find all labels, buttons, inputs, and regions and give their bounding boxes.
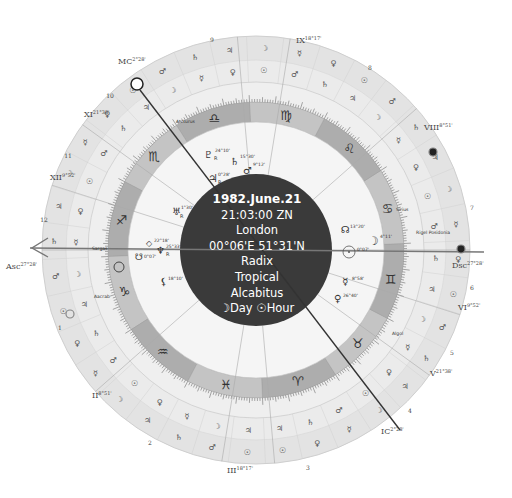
svg-text:☿: ☿	[396, 136, 401, 145]
house-number-3: 3	[306, 464, 310, 471]
house-v-label: V21°38'	[429, 368, 452, 378]
svg-text:☽: ☽	[261, 44, 268, 53]
svg-text:♄: ♄	[321, 80, 328, 89]
svg-text:♀: ♀	[77, 207, 83, 216]
svg-text:R: R	[180, 213, 184, 219]
zodiac-sign-glyph: ♉	[352, 336, 364, 351]
chart-time: 21:03:00 ZN	[196, 208, 318, 224]
svg-text:25°33': 25°33'	[166, 244, 181, 249]
fixed-star-rigel: Rigel Posidonia	[416, 230, 450, 235]
zodiac-sign-glyph: ♌	[343, 141, 355, 156]
fixed-star-algol: Algol	[392, 331, 403, 336]
svg-text:☽: ☽	[368, 234, 379, 248]
chart-day-hour: ☽Day ☉Hour	[196, 301, 318, 317]
svg-text:♃: ♃	[428, 285, 435, 294]
svg-text:☉: ☉	[279, 446, 286, 455]
house-viii-label: VIII8°51'	[423, 122, 453, 132]
zodiac-sign-glyph: ♍	[280, 108, 292, 123]
fixed-star-arcturus: Arcturus	[176, 119, 196, 124]
svg-text:R: R	[218, 179, 222, 185]
asc-label: Asc27°28'	[5, 261, 37, 271]
svg-text:R: R	[166, 251, 170, 257]
svg-text:♂: ♂	[209, 443, 216, 452]
chart-date: 1982.June.21	[196, 192, 318, 208]
zodiac-sign-glyph: ♒	[157, 344, 169, 359]
zodiac-sign-glyph: ♊	[385, 272, 397, 287]
zodiac-sign-glyph: ♎	[209, 111, 221, 126]
svg-text:♄: ♄	[93, 329, 100, 338]
svg-text:☿: ☿	[347, 425, 352, 434]
svg-text:0°28': 0°28'	[218, 172, 230, 177]
svg-text:☉: ☉	[131, 379, 138, 388]
svg-text:⚸: ⚸	[160, 276, 167, 287]
svg-text:☿: ☿	[93, 369, 98, 378]
house-number-7: 7	[470, 204, 474, 211]
fixed-star-acrab: Aacrab	[94, 294, 110, 299]
svg-text:0°07': 0°07'	[144, 254, 156, 259]
svg-text:♄: ♄	[175, 433, 182, 442]
svg-text:♄: ♄	[120, 124, 127, 133]
svg-text:18°10': 18°10'	[168, 276, 183, 281]
house-number-6: 6	[470, 284, 474, 291]
chart-place: London	[196, 223, 318, 239]
svg-text:♃: ♃	[226, 46, 233, 55]
svg-text:♃: ♃	[81, 300, 88, 309]
svg-text:☋: ☋	[135, 252, 143, 262]
svg-text:♀: ♀	[314, 439, 320, 448]
svg-text:♄: ♄	[230, 156, 239, 167]
svg-text:♄: ♄	[413, 123, 420, 132]
svg-text:♃: ♃	[245, 426, 252, 435]
house-number-9: 9	[210, 36, 214, 43]
svg-text:☿: ☿	[74, 238, 79, 247]
svg-text:♂: ♂	[243, 165, 252, 176]
svg-text:◇: ◇	[146, 239, 153, 248]
svg-text:☉: ☉	[86, 177, 93, 186]
svg-text:☿: ☿	[342, 276, 348, 287]
svg-text:♂: ♂	[291, 70, 298, 79]
svg-text:♀: ♀	[330, 59, 336, 68]
house-number-4: 4	[408, 407, 412, 414]
svg-text:♄: ♄	[51, 237, 58, 246]
svg-text:☉: ☉	[260, 66, 267, 75]
svg-text:26°40': 26°40'	[343, 293, 358, 298]
house-iii-label: III18°17'	[227, 465, 253, 475]
svg-text:☿: ☿	[405, 343, 410, 352]
svg-text:22°18': 22°18'	[154, 238, 169, 243]
house-number-8: 8	[368, 64, 372, 71]
svg-text:☽: ☽	[116, 395, 123, 404]
svg-text:♃: ♃	[55, 202, 62, 211]
svg-text:♀: ♀	[334, 293, 341, 304]
chart-house-system: Alcabitus	[196, 286, 318, 302]
svg-text:☽: ☽	[214, 422, 221, 431]
ic-label: IC2°28'	[381, 426, 404, 436]
house-number-5: 5	[450, 349, 454, 356]
house-vi-label: VI9°52'	[457, 302, 480, 312]
svg-text:☽: ☽	[419, 315, 426, 324]
svg-text:R: R	[214, 155, 218, 161]
svg-text:☽: ☽	[445, 185, 452, 194]
svg-text:♂: ♂	[110, 356, 117, 365]
chart-zodiac: Tropical	[196, 270, 318, 286]
svg-text:☽: ☽	[374, 113, 381, 122]
mc-label: MC2°28'	[118, 56, 146, 66]
svg-text:0°07': 0°07'	[357, 247, 369, 252]
svg-text:☽: ☽	[74, 270, 81, 279]
svg-text:☿: ☿	[185, 412, 190, 421]
svg-text:15°30': 15°30'	[240, 154, 255, 159]
svg-text:♀: ♀	[74, 339, 80, 348]
house-number-2: 2	[148, 439, 152, 446]
svg-text:♃: ♃	[208, 172, 218, 185]
svg-text:☉: ☉	[244, 448, 251, 457]
svg-text:☿: ☿	[297, 49, 302, 58]
svg-text:☉: ☉	[362, 389, 369, 398]
svg-text:♃: ♃	[401, 382, 408, 391]
zodiac-sign-glyph: ♈	[292, 374, 304, 389]
svg-text:♄: ♄	[432, 254, 439, 263]
zodiac-sign-glyph: ♓	[220, 377, 232, 392]
mc-circle-icon	[131, 78, 143, 90]
zodiac-sign-glyph: ♏	[148, 149, 160, 164]
svg-text:♂: ♂	[389, 97, 396, 106]
svg-text:24°10': 24°10'	[215, 148, 230, 153]
svg-text:☿: ☿	[83, 138, 88, 147]
svg-text:♀: ♀	[386, 368, 392, 377]
